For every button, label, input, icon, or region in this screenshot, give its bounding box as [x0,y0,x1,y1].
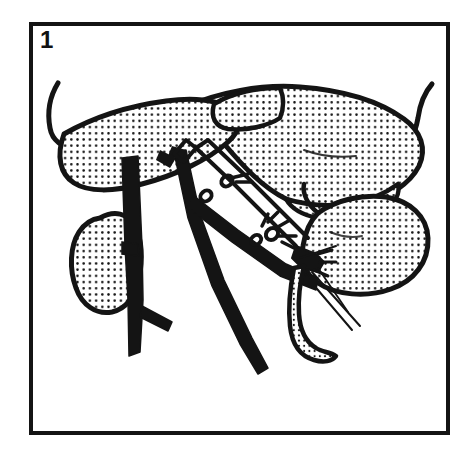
anatomical-illustration [0,0,475,457]
figure-number-label: 1 [40,28,53,52]
figure-panel: 1 [0,0,475,457]
renal-vein [122,242,139,256]
spleen [302,196,428,294]
